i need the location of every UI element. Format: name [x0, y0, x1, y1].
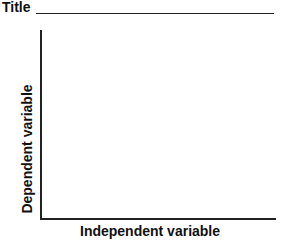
x-axis	[40, 218, 276, 220]
x-axis-label: Independent variable	[80, 223, 220, 239]
y-axis-label: Dependent variable	[19, 84, 35, 213]
chart-title: Title	[2, 0, 31, 15]
y-axis	[40, 30, 42, 220]
title-blank-line	[36, 13, 274, 14]
